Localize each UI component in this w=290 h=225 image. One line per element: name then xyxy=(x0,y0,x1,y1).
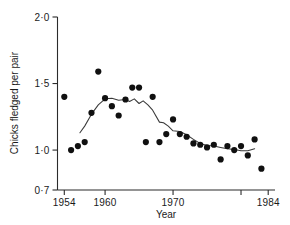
data-point xyxy=(61,94,67,100)
data-point xyxy=(68,147,74,153)
x-tick-label: 1984 xyxy=(257,197,280,208)
x-axis-group: 1954196019701984 xyxy=(53,190,280,208)
data-point xyxy=(258,166,264,172)
data-point xyxy=(211,142,217,148)
x-axis-ticks xyxy=(64,190,268,195)
data-point xyxy=(150,94,156,100)
data-point xyxy=(109,103,115,109)
data-point xyxy=(143,139,149,145)
data-point xyxy=(170,116,176,122)
data-point xyxy=(218,156,224,162)
data-point xyxy=(204,144,210,150)
y-axis-title: Chicks fledged per pair xyxy=(9,51,20,154)
data-point xyxy=(116,112,122,118)
y-axis-tick-labels: 0·71·01·52·0 xyxy=(34,12,49,196)
data-point xyxy=(252,136,258,142)
data-point xyxy=(95,68,101,74)
x-tick-label: 1970 xyxy=(162,197,185,208)
data-point xyxy=(184,134,190,140)
data-point xyxy=(82,139,88,145)
y-tick-label: 1·5 xyxy=(34,78,49,89)
y-axis-ticks xyxy=(53,17,58,190)
data-point xyxy=(238,143,244,149)
data-points-group xyxy=(61,68,264,171)
x-axis-title: Year xyxy=(156,209,177,220)
data-point xyxy=(177,131,183,137)
trend-line xyxy=(80,98,255,151)
y-tick-label: 0·7 xyxy=(34,185,49,196)
data-point xyxy=(129,84,135,90)
data-point xyxy=(102,95,108,101)
y-tick-label: 1·0 xyxy=(34,145,49,156)
scatter-plot-svg: 0·71·01·52·0 1954196019701984 Year Chick… xyxy=(0,0,290,225)
x-tick-label: 1954 xyxy=(53,197,76,208)
data-point xyxy=(122,96,128,102)
data-point xyxy=(156,139,162,145)
data-point xyxy=(224,143,230,149)
data-point xyxy=(245,152,251,158)
data-point xyxy=(190,140,196,146)
y-axis-group: 0·71·01·52·0 xyxy=(34,12,57,196)
x-tick-label: 1960 xyxy=(94,197,117,208)
data-point xyxy=(197,142,203,148)
data-point xyxy=(75,143,81,149)
data-point xyxy=(88,110,94,116)
y-tick-label: 2·0 xyxy=(34,12,49,23)
chart-figure: 0·71·01·52·0 1954196019701984 Year Chick… xyxy=(0,0,290,225)
data-point xyxy=(163,131,169,137)
data-point xyxy=(231,147,237,153)
x-axis-tick-labels: 1954196019701984 xyxy=(53,197,280,208)
data-point xyxy=(136,84,142,90)
